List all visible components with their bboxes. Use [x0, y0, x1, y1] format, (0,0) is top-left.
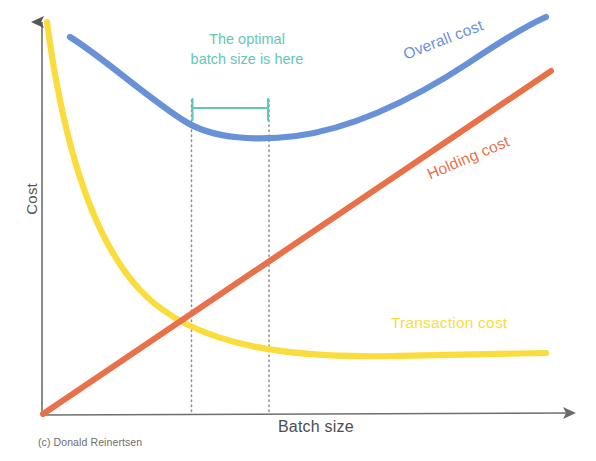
holding-cost-curve: [43, 71, 551, 414]
credit-line: (c) Donald Reinertsen: [38, 436, 142, 448]
optimal-range-bracket: [192, 99, 268, 120]
cost-vs-batch-size-chart: Cost Batch size Overall cost Holding cos…: [0, 0, 596, 461]
y-axis-label: Cost: [23, 159, 41, 239]
chart-canvas: [0, 0, 596, 461]
optimal-range-guides: [192, 100, 270, 414]
annotation-line-2: batch size is here: [191, 51, 304, 67]
transaction-cost-series-label: Transaction cost: [391, 314, 507, 332]
optimal-batch-size-annotation: The optimal batch size is here: [182, 30, 312, 69]
x-axis-label: Batch size: [278, 418, 354, 437]
x-axis-line: [42, 413, 574, 415]
annotation-line-1: The optimal: [209, 31, 285, 47]
